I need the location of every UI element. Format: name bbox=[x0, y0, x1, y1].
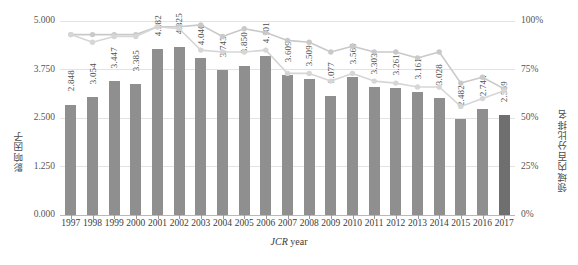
x-axis-tick-mark bbox=[396, 215, 397, 219]
x-axis-tick-mark bbox=[331, 215, 332, 219]
line-marker bbox=[328, 49, 333, 54]
y-axis-left-tick-label: 3.750 bbox=[0, 64, 55, 74]
line-marker bbox=[133, 34, 138, 39]
line-marker bbox=[393, 80, 398, 85]
line-marker bbox=[220, 34, 225, 39]
x-axis-tick-mark bbox=[223, 215, 224, 219]
y-axis-right-tick-label: 75% bbox=[521, 64, 571, 74]
x-axis-tick-mark bbox=[179, 215, 180, 219]
line-marker bbox=[372, 78, 377, 83]
line-marker bbox=[285, 38, 290, 43]
y-axis-right-tick-label: 0% bbox=[521, 209, 571, 219]
x-axis-tick-mark bbox=[374, 215, 375, 219]
x-axis-tick-mark bbox=[288, 215, 289, 219]
line-marker bbox=[458, 80, 463, 85]
line-marker bbox=[177, 26, 182, 31]
x-axis-tick-mark bbox=[158, 215, 159, 219]
x-axis-tick-mark bbox=[201, 215, 202, 219]
line-marker bbox=[393, 49, 398, 54]
x-axis-tick-mark bbox=[309, 215, 310, 219]
line-marker bbox=[198, 22, 203, 27]
y-axis-right-tick-label: 100% bbox=[521, 15, 571, 25]
chart-figure: 影响因子 领域内百分比排名 2.8483.0543.4473.3854.2824… bbox=[0, 0, 578, 265]
x-axis-title-rest: year bbox=[288, 236, 308, 247]
line-marker bbox=[242, 26, 247, 31]
y-axis-right-tick-label: 25% bbox=[521, 161, 571, 171]
line-marker bbox=[90, 40, 95, 45]
plot-area: 2.8483.0543.4473.3854.2824.3254.0403.743… bbox=[60, 21, 515, 215]
y-axis-left-tick-label: 2.500 bbox=[0, 112, 55, 122]
x-axis-tick-mark bbox=[114, 215, 115, 219]
line-marker bbox=[480, 75, 485, 80]
x-axis-title: JCR year bbox=[0, 236, 578, 247]
y-axis-right-title: 领域内百分比排名 bbox=[556, 62, 570, 192]
line-marker bbox=[437, 84, 442, 89]
line-marker bbox=[263, 30, 268, 35]
x-axis-tick-mark bbox=[418, 215, 419, 219]
y-axis-left-tick-label: 1.250 bbox=[0, 161, 55, 171]
line-series-group bbox=[60, 21, 515, 215]
line-marker bbox=[68, 32, 73, 37]
x-axis-tick-mark bbox=[461, 215, 462, 219]
x-axis-tick-mark bbox=[244, 215, 245, 219]
x-axis-tick-mark bbox=[266, 215, 267, 219]
y-axis-right-tick-label: 50% bbox=[521, 112, 571, 122]
line-marker bbox=[112, 34, 117, 39]
line-marker bbox=[198, 47, 203, 52]
x-axis-tick-mark bbox=[504, 215, 505, 219]
line-marker bbox=[350, 44, 355, 49]
line-marker bbox=[307, 71, 312, 76]
y-axis-left-tick-label: 0.000 bbox=[0, 209, 55, 219]
x-axis-ticks: 1997199819992000200120022003200420052006… bbox=[60, 218, 515, 232]
x-axis-tick-mark bbox=[136, 215, 137, 219]
line-marker bbox=[155, 24, 160, 29]
line-marker bbox=[458, 104, 463, 109]
line-marker bbox=[307, 40, 312, 45]
x-axis-tick-mark bbox=[483, 215, 484, 219]
line-marker bbox=[350, 71, 355, 76]
line-marker bbox=[502, 88, 507, 93]
line-marker bbox=[372, 49, 377, 54]
line-marker bbox=[242, 49, 247, 54]
x-axis-tick-mark bbox=[353, 215, 354, 219]
x-axis-tick-label: 2017 bbox=[491, 218, 517, 228]
line-marker bbox=[328, 78, 333, 83]
x-axis-title-italic: JCR bbox=[271, 236, 288, 247]
line-marker bbox=[220, 49, 225, 54]
line-marker bbox=[285, 71, 290, 76]
x-axis-tick-mark bbox=[93, 215, 94, 219]
line-marker bbox=[90, 32, 95, 37]
x-axis-tick-mark bbox=[439, 215, 440, 219]
line-marker bbox=[437, 49, 442, 54]
line-marker bbox=[415, 55, 420, 60]
line-marker bbox=[263, 47, 268, 52]
y-axis-left-tick-label: 5.000 bbox=[0, 15, 55, 25]
line-marker bbox=[415, 84, 420, 89]
x-axis-tick-mark bbox=[71, 215, 72, 219]
line-marker bbox=[480, 96, 485, 101]
